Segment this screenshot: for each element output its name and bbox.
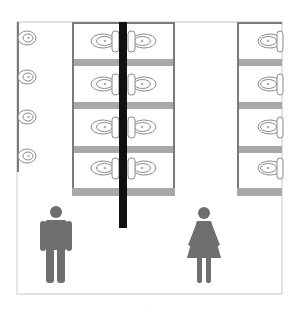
right-stall-block — [237, 22, 283, 196]
urinal-icon — [18, 70, 36, 84]
floor-plan — [0, 0, 298, 316]
man-icon — [40, 206, 72, 283]
urinal-icon — [18, 149, 36, 163]
left-wall — [17, 22, 19, 172]
caption: - — [0, 303, 298, 309]
urinal-icon — [18, 110, 36, 124]
woman-icon — [187, 207, 221, 283]
divider-wall — [119, 22, 127, 228]
urinal-icon — [18, 31, 36, 45]
